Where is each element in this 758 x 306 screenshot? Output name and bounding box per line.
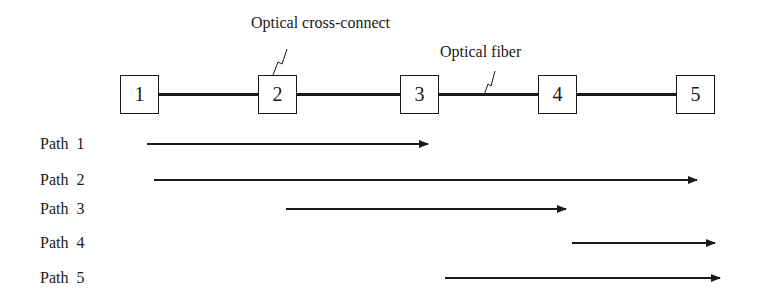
cross-connect-leader-icon	[273, 49, 287, 75]
path-4-label: Path 4	[40, 234, 84, 252]
arrows-layer	[0, 0, 758, 306]
path-5-label: Path 5	[40, 269, 84, 287]
path-3-label: Path 3	[40, 200, 84, 218]
path-1-label: Path 1	[40, 135, 84, 153]
fiber-leader-icon	[484, 71, 495, 95]
path-2-label: Path 2	[40, 171, 84, 189]
